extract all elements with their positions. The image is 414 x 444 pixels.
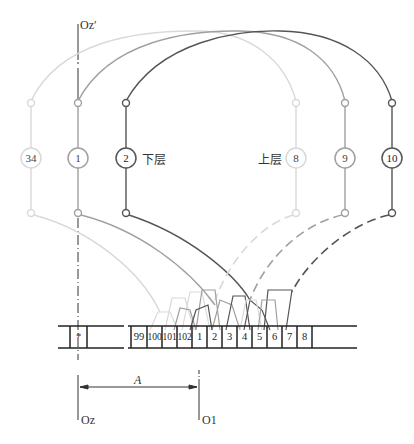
axis-label-o1: O1: [202, 413, 217, 428]
axis-label-oz-prime: Oz′: [80, 18, 97, 33]
slot-2: 2: [207, 326, 222, 348]
slot-4: 4: [237, 326, 252, 348]
axis-label-oz: Oz: [81, 413, 95, 428]
slot-5: 5: [252, 326, 267, 348]
slot-99: 99: [131, 326, 147, 348]
coil-label-8: 8: [286, 148, 306, 168]
coil-label-1: 1: [68, 148, 88, 168]
coil-label-34: 34: [21, 148, 41, 168]
lower-layer-leads: [34, 215, 250, 312]
upper-arcs: [31, 31, 392, 101]
slot-100: 100: [147, 326, 162, 348]
coil-label-10: 10: [382, 148, 402, 168]
slot-101: 101: [162, 326, 177, 348]
slot-7: 7: [282, 326, 297, 348]
slot-3: 3: [222, 326, 237, 348]
diagram-graphics: [0, 0, 414, 444]
end-connections: [150, 290, 292, 330]
coil-label-2: 2: [116, 148, 136, 168]
coil-label-9: 9: [335, 148, 355, 168]
slot-1: 1: [192, 326, 207, 348]
winding-diagram: Oz′ Oz O1 A 下层 上层 34 1 2 8 9 10 * 99 100…: [0, 0, 414, 444]
upper-layer-label: 上层: [258, 150, 282, 167]
slot-6: 6: [267, 326, 282, 348]
lower-layer-label: 下层: [142, 150, 166, 167]
slot-8: 8: [297, 326, 312, 348]
slot-102: 102: [177, 326, 192, 348]
dimension-label-a: A: [134, 373, 141, 388]
slot-star: *: [70, 326, 87, 348]
